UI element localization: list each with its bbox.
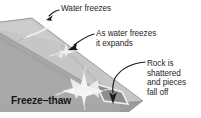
diagram-caption: Freeze–thaw	[11, 95, 71, 106]
callout-as-water-freezes-it-expands: As water freezes it expands	[96, 29, 156, 48]
arrow-expands	[68, 34, 94, 50]
callout-water-freezes: Water freezes	[61, 4, 111, 14]
arrow-water-freezes	[46, 10, 59, 21]
callout-rock-is-shattered: Rock is shattered and pieces fall off	[147, 59, 186, 97]
freeze-thaw-diagram: Water freezes As water freezes it expand…	[0, 0, 201, 118]
